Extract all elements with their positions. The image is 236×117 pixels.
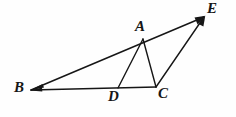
segment-AC — [143, 39, 156, 87]
vertex-label-B: B — [14, 80, 24, 95]
segment-BC — [31, 87, 156, 90]
vertex-label-C: C — [158, 86, 168, 101]
vertex-label-A: A — [135, 19, 145, 34]
vertex-label-E: E — [207, 1, 217, 16]
segment-BE — [31, 17, 204, 90]
geometry-figure: A B C D E — [0, 0, 236, 117]
segment-AD — [118, 39, 143, 88]
vertex-label-D: D — [108, 89, 119, 104]
